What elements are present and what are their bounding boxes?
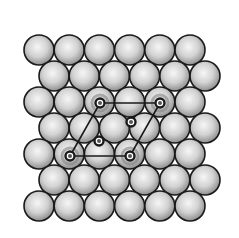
adsorbate-core	[158, 101, 162, 105]
substrate-atom	[145, 191, 175, 221]
substrate-atom	[84, 191, 114, 221]
substrate-atom	[84, 35, 114, 65]
substrate-atom	[24, 35, 54, 65]
substrate-atom	[69, 61, 99, 91]
substrate-atom	[39, 61, 69, 91]
substrate-atom	[145, 35, 175, 65]
substrate-atom	[39, 113, 69, 143]
substrate-atom	[175, 35, 205, 65]
substrate-atom	[145, 139, 175, 169]
substrate-atom	[175, 191, 205, 221]
substrate-atom	[54, 87, 84, 117]
substrate-atom	[175, 139, 205, 169]
substrate-atom	[24, 87, 54, 117]
substrate-atom	[190, 61, 220, 91]
substrate-atom	[190, 113, 220, 143]
adsorbate-core	[98, 101, 102, 105]
substrate-atom	[99, 165, 129, 195]
substrate-atom	[115, 87, 145, 117]
substrate-atom	[99, 61, 129, 91]
substrate-atom	[160, 165, 190, 195]
adsorbate-core	[128, 154, 132, 158]
substrate-atom	[130, 165, 160, 195]
substrate-atom	[69, 165, 99, 195]
substrate-atom	[190, 165, 220, 195]
substrate-atom	[39, 165, 69, 195]
substrate-atom	[115, 191, 145, 221]
substrate-atom	[115, 35, 145, 65]
substrate-atom	[130, 61, 160, 91]
substrate-atom	[175, 87, 205, 117]
adsorbate-core	[97, 139, 101, 143]
substrate-atoms	[24, 35, 220, 221]
substrate-atom	[24, 191, 54, 221]
substrate-atom	[160, 113, 190, 143]
adsorbate-core	[129, 120, 133, 124]
substrate-atom	[54, 191, 84, 221]
substrate-atom	[24, 139, 54, 169]
substrate-atom	[54, 35, 84, 65]
substrate-atom	[160, 61, 190, 91]
adsorbate-core	[68, 154, 72, 158]
surface-lattice-diagram	[0, 0, 239, 238]
